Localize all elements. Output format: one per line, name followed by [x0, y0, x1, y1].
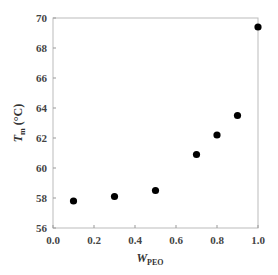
scatter-chart: 5658606264666870 0.00.20.40.60.81.0 WPEO…	[0, 0, 278, 275]
y-tick-label: 68	[36, 42, 48, 54]
data-point	[152, 187, 159, 194]
x-tick-label: 0.4	[128, 234, 142, 246]
x-tick-label: 1.0	[251, 234, 265, 246]
x-tick-label: 0.8	[210, 234, 224, 246]
data-point	[70, 197, 77, 204]
y-tick-label: 56	[36, 222, 48, 234]
plot-frame	[53, 18, 258, 228]
x-tick-label: 0.6	[169, 234, 183, 246]
y-tick-label: 58	[36, 192, 48, 204]
data-point	[111, 193, 118, 200]
x-tick-label: 0.0	[46, 234, 60, 246]
y-tick-label: 64	[36, 102, 48, 114]
y-tick-label: 60	[36, 162, 48, 174]
data-point	[234, 112, 241, 119]
data-points	[70, 23, 262, 204]
x-axis-title: WPEO	[136, 251, 163, 267]
data-point	[254, 23, 261, 30]
data-point	[193, 151, 200, 158]
y-tick-label: 66	[36, 72, 48, 84]
x-tick-label: 0.2	[87, 234, 101, 246]
y-tick-label: 62	[36, 132, 48, 144]
y-axis-title: Tm(°C)	[11, 104, 27, 142]
y-tick-label: 70	[36, 12, 48, 24]
data-point	[213, 131, 220, 138]
